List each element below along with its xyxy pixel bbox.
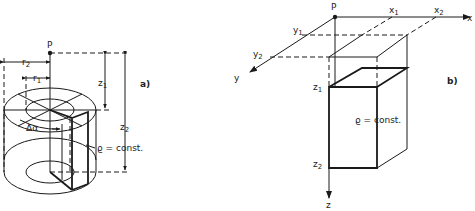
r1-label: r1 (33, 73, 41, 85)
x-axis-label: x (467, 13, 473, 23)
r2-label: r2 (22, 57, 30, 69)
sector-element (50, 110, 88, 190)
x2-label: x2 (434, 5, 444, 17)
y1-label: y1 (293, 25, 303, 37)
y2-label: y2 (253, 49, 263, 61)
density-label: ϱ = const. (97, 143, 143, 153)
point-p-marker (48, 51, 52, 55)
z-axis-label: z (326, 200, 331, 210)
panel-label-a: a) (140, 79, 150, 89)
ghost-right-top (377, 35, 407, 57)
x1-label: x1 (389, 5, 399, 17)
point-p-label: P (47, 40, 53, 50)
ghost-left-top (329, 35, 362, 57)
figure-b-rectangular-prism: P x1 x2 x y1 y2 y z1 z2 z ϱ = const. b) (234, 2, 473, 210)
prism-top-face (329, 68, 407, 87)
z1-label: z1 (98, 78, 107, 90)
sector-base-edge (50, 172, 72, 190)
point-p-marker (333, 15, 337, 19)
x1-projection (362, 17, 392, 35)
angle-label: Δα (26, 123, 38, 133)
z1-label: z1 (313, 82, 322, 94)
z2-label: z2 (120, 122, 129, 134)
panel-label-b: b) (447, 76, 458, 86)
density-label: ϱ = const. (355, 115, 401, 125)
prism-front-face (329, 87, 377, 168)
figure-a-hollow-cylinder: P r2 r1 z1 z2 Δα ϱ = const. a) (4, 40, 150, 194)
point-p-label: P (331, 2, 337, 12)
x2-projection (407, 17, 436, 35)
z2-label: z2 (313, 159, 322, 171)
y-axis-label: y (234, 73, 240, 83)
